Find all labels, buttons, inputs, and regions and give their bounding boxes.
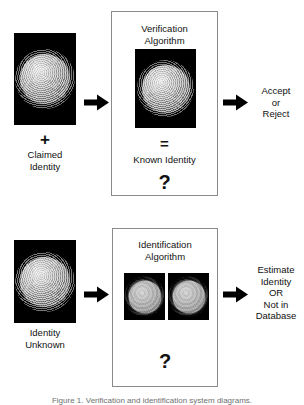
verification-output-arrow: [223, 94, 248, 111]
fingerprint-disc: [20, 54, 70, 104]
known-identity-label: Known Identity: [112, 154, 217, 166]
identification-output-line5: Database: [248, 310, 304, 322]
equals-sign: =: [112, 136, 217, 151]
verification-input-fingerprint: [14, 33, 76, 125]
identification-output-line1: Estimate: [248, 264, 304, 276]
verification-template-fingerprint: [135, 49, 196, 128]
identification-candidate-b: [168, 273, 209, 320]
identification-input-label-line2: Unknown: [4, 339, 86, 351]
identification-output-label: Estimate Identity OR Not in Database: [248, 264, 304, 322]
fingerprint-disc: [128, 280, 161, 313]
plus-sign: +: [14, 131, 76, 148]
verification-input-label: Claimed Identity: [4, 149, 86, 172]
verification-title-line1: Verification: [112, 23, 217, 35]
verification-input-label-line1: Claimed: [4, 149, 86, 161]
identification-input-arrow: [84, 286, 109, 303]
identification-algorithm-title: Identification Algorithm: [113, 239, 217, 262]
identification-output-line2: Identity: [248, 276, 304, 288]
verification-output-line3: Reject: [250, 108, 302, 120]
fingerprint-disc: [172, 280, 205, 313]
identification-candidate-a: [124, 273, 165, 320]
verification-title-line2: Algorithm: [112, 35, 217, 47]
verification-input-arrow: [84, 94, 109, 111]
verification-algorithm-title: Verification Algorithm: [112, 23, 217, 46]
verification-question-mark: ?: [112, 172, 217, 192]
verification-output-label: Accept or Reject: [250, 85, 302, 120]
fingerprint-disc: [20, 257, 70, 307]
identification-input-fingerprint: [14, 240, 76, 323]
identification-algorithm-box: Identification Algorithm ?: [112, 228, 218, 387]
figure-caption: Figure 1. Verification and identificatio…: [0, 396, 304, 405]
identification-title-line2: Algorithm: [113, 251, 217, 263]
verification-input-label-line2: Identity: [4, 161, 86, 173]
fingerprint-disc: [142, 65, 190, 113]
identification-input-label: Identity Unknown: [4, 327, 86, 350]
identification-output-arrow: [223, 286, 248, 303]
identification-question-mark: ?: [113, 351, 217, 371]
verification-algorithm-box: Verification Algorithm = Known Identity …: [111, 11, 218, 196]
verification-output-line1: Accept: [250, 85, 302, 97]
identification-input-label-line1: Identity: [4, 327, 86, 339]
identification-output-line4: Not in: [248, 299, 304, 311]
verification-output-line2: or: [250, 97, 302, 109]
identification-title-line1: Identification: [113, 239, 217, 251]
identification-output-line3: OR: [248, 287, 304, 299]
